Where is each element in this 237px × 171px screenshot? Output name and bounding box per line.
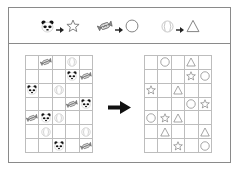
grid-cell-r5-c3 — [172, 111, 185, 125]
ball-icon — [41, 127, 51, 137]
grid-cell-r7-c4 — [66, 139, 79, 153]
panda-icon — [27, 85, 37, 95]
triangle-icon — [160, 127, 170, 137]
candy-icon — [80, 141, 92, 151]
circle-icon — [125, 18, 139, 37]
circle-icon — [146, 113, 156, 123]
grid-cell-r1-c2 — [39, 56, 52, 70]
grid-cell-r1-c3 — [172, 56, 185, 70]
grid-cell-r3-c3 — [172, 84, 185, 98]
grid-cell-r1-c1 — [26, 56, 39, 70]
grid-cell-r2-c5 — [80, 70, 93, 84]
grid-cell-r2-c5 — [199, 70, 212, 84]
grid-cell-r4-c5 — [199, 98, 212, 112]
ball-icon — [54, 113, 64, 123]
grid-cell-r3-c2 — [158, 84, 171, 98]
grid-cell-r4-c2 — [158, 98, 171, 112]
grid-cell-r3-c1 — [145, 84, 158, 98]
candy-icon — [26, 113, 38, 123]
grid-cell-r4-c4 — [185, 98, 198, 112]
candy-icon — [40, 57, 52, 67]
grid-cell-r7-c3 — [53, 139, 66, 153]
triangle-icon — [200, 127, 210, 137]
star-icon — [160, 113, 170, 123]
grid-cell-r6-c1 — [26, 125, 39, 139]
grid-cell-r7-c3 — [172, 139, 185, 153]
result-grid — [144, 55, 212, 153]
grid-cell-r2-c4 — [185, 70, 198, 84]
grid-cell-r7-c2 — [39, 139, 52, 153]
grid-cell-r5-c3 — [53, 111, 66, 125]
grid-cell-r4-c4 — [66, 98, 79, 112]
grid-cell-r6-c4 — [66, 125, 79, 139]
grid-cell-r3-c4 — [66, 84, 79, 98]
grid-cell-r5-c4 — [66, 111, 79, 125]
ball-icon — [81, 127, 91, 137]
grid-cell-r2-c4 — [66, 70, 79, 84]
panda-icon — [41, 113, 51, 123]
grid-cell-r6-c2 — [158, 125, 171, 139]
grid-cell-r7-c4 — [185, 139, 198, 153]
grid-cell-r4-c2 — [39, 98, 52, 112]
grid-cell-r6-c3 — [53, 125, 66, 139]
legend-item-ball-to-triangle — [161, 19, 200, 35]
grid-cell-r1-c4 — [185, 56, 198, 70]
grid-cell-r3-c5 — [80, 84, 93, 98]
grid-cell-r6-c5 — [199, 125, 212, 139]
source-grid — [25, 55, 93, 153]
grid-cell-r2-c2 — [158, 70, 171, 84]
grid-cell-r3-c1 — [26, 84, 39, 98]
star-icon — [146, 85, 156, 95]
grid-cell-r3-c4 — [185, 84, 198, 98]
small-right-arrow-icon — [56, 18, 64, 37]
triangle-icon — [186, 18, 200, 37]
grid-cell-r1-c2 — [158, 56, 171, 70]
circle-icon — [200, 71, 210, 81]
grid-cell-r6-c2 — [39, 125, 52, 139]
grid-cell-r6-c4 — [185, 125, 198, 139]
grid-cell-r2-c3 — [172, 70, 185, 84]
ball-icon — [161, 18, 174, 37]
grid-cell-r5-c5 — [199, 111, 212, 125]
candy-icon — [97, 18, 113, 37]
grid-cell-r2-c1 — [145, 70, 158, 84]
candy-icon — [80, 71, 92, 81]
triangle-icon — [173, 85, 183, 95]
grid-cell-r5-c5 — [80, 111, 93, 125]
panda-icon — [41, 18, 54, 37]
star-icon — [200, 99, 210, 109]
candy-icon — [66, 99, 78, 109]
grid-cell-r6-c1 — [145, 125, 158, 139]
grid-cell-r7-c1 — [145, 139, 158, 153]
grid-cell-r2-c1 — [26, 70, 39, 84]
grid-cell-r3-c3 — [53, 84, 66, 98]
circle-icon — [160, 57, 170, 67]
star-icon — [66, 18, 80, 37]
grid-cell-r5-c1 — [26, 111, 39, 125]
grid-cell-r4-c5 — [80, 98, 93, 112]
grid-cell-r5-c2 — [158, 111, 171, 125]
grid-cell-r1-c5 — [199, 56, 212, 70]
grid-cell-r4-c3 — [172, 98, 185, 112]
grid-cell-r7-c2 — [158, 139, 171, 153]
grid-cell-r4-c1 — [145, 98, 158, 112]
transform-arrow-icon — [108, 99, 132, 118]
small-right-arrow-icon — [115, 18, 123, 37]
panda-icon — [67, 71, 77, 81]
grid-cell-r2-c2 — [39, 70, 52, 84]
legend-item-panda-to-star — [41, 19, 80, 35]
panda-icon — [54, 141, 64, 151]
grid-cell-r4-c1 — [26, 98, 39, 112]
grid-cell-r1-c4 — [66, 56, 79, 70]
grid-cell-r5-c2 — [39, 111, 52, 125]
panda-icon — [81, 99, 91, 109]
ball-icon — [67, 57, 77, 67]
grid-cell-r6-c5 — [80, 125, 93, 139]
star-icon — [186, 71, 196, 81]
grid-cell-r3-c2 — [39, 84, 52, 98]
grid-cell-r2-c3 — [53, 70, 66, 84]
grid-cell-r5-c1 — [145, 111, 158, 125]
triangle-icon — [186, 57, 196, 67]
star-icon — [173, 141, 183, 151]
grid-cell-r7-c5 — [80, 139, 93, 153]
